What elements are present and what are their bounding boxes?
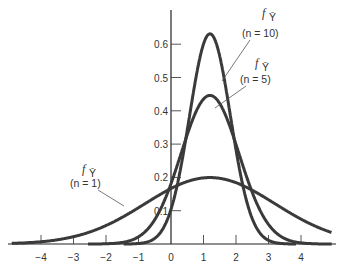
density-curve-n5 [88, 95, 332, 244]
density-curves [12, 34, 332, 244]
x-tick-label: 2 [233, 252, 239, 263]
sampling-distribution-chart: −4−3−2−101234 0.10.20.30.40.50.6 f Ȳ (n … [0, 0, 343, 273]
x-tick-label: 1 [201, 252, 207, 263]
y-tick-label: 0.4 [154, 106, 168, 117]
y-tick-label: 0.2 [154, 172, 168, 183]
x-tick-label: 0 [168, 252, 174, 263]
annotation-n5-subscript: Ȳ [262, 61, 269, 73]
annotation-n1: f Ȳ (n = 1) [70, 162, 124, 206]
annotation-n1-f: f [82, 162, 87, 176]
annotation-n10-label: (n = 10) [242, 27, 278, 39]
annotation-n5-f: f [255, 56, 260, 70]
y-tick-label: 0.5 [154, 73, 168, 84]
x-tick-label: −4 [35, 252, 47, 263]
x-tick-label: 3 [266, 252, 272, 263]
annotation-n10-subscript: Ȳ [269, 11, 276, 23]
leader-line-n5 [215, 86, 246, 108]
x-tick-label: −3 [68, 252, 80, 263]
leader-line-n1 [98, 190, 124, 206]
annotation-n10: f Ȳ (n = 10) [222, 6, 278, 81]
y-tick-label: 0.6 [154, 39, 168, 50]
x-tick-label: 4 [298, 252, 304, 263]
annotation-n1-label: (n = 1) [70, 177, 101, 189]
x-tick-label: −1 [133, 252, 145, 263]
annotation-n5-label: (n = 5) [240, 73, 271, 85]
x-ticks: −4−3−2−101234 [35, 235, 304, 263]
axes: −4−3−2−101234 0.10.20.30.40.50.6 [8, 10, 336, 263]
density-curve-n10 [124, 34, 296, 244]
x-tick-label: −2 [100, 252, 112, 263]
annotation-n10-f: f [262, 6, 267, 20]
y-tick-label: 0.3 [154, 139, 168, 150]
